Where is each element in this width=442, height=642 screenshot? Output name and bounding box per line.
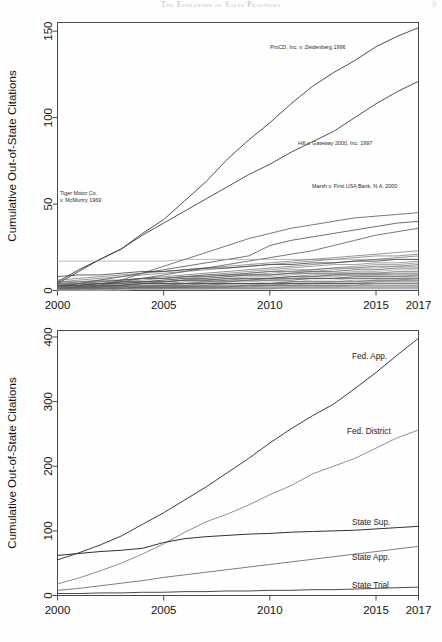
top-plot-frame — [58, 23, 419, 291]
x-tick-label: 2000 — [45, 299, 71, 311]
label-fed-district: Fed. District — [347, 427, 391, 436]
x-tick-label: 2010 — [257, 299, 283, 311]
y-tick-label: 150 — [42, 22, 54, 41]
annot-tiger: Tiger Motor Co. — [60, 190, 97, 196]
y-tick-label: 400 — [42, 327, 54, 346]
annot-tiger: v. McMurtry 1969 — [60, 197, 101, 203]
bottom-chart-svg: 0100200300400 20002005201020152017 Fed. … — [0, 320, 442, 642]
x-tick-label: 2017 — [406, 299, 432, 311]
y-tick-label: 0 — [42, 287, 54, 293]
running-head-title: The Evolution of Sales Practices — [161, 0, 281, 9]
top-y-axis-ticks: 050100150 — [42, 22, 58, 294]
y-tick-label: 300 — [42, 392, 54, 411]
top-y-axis-title: Cumulative Out-of-State Citations — [6, 70, 18, 242]
top-chart-svg: 050100150 20002005201020152017 ProCD, In… — [0, 10, 442, 320]
label-state-app: State App. — [352, 553, 390, 562]
running-head: The Evolution of Sales Practices — [0, 0, 442, 10]
y-tick-label: 0 — [42, 592, 54, 598]
bottom-x-axis-ticks: 20002005201020152017 — [45, 596, 432, 616]
x-tick-label: 2005 — [151, 299, 177, 311]
x-tick-label: 2015 — [363, 604, 389, 616]
annot-marsh: Marsh v. First USA Bank, N.A. 2000 — [312, 183, 397, 189]
top-annotations-group: ProCD, Inc. v. Zeidenberg 1996Hill v. Ga… — [60, 44, 397, 203]
x-tick-label: 2005 — [151, 604, 177, 616]
label-state-trial: State Trial — [352, 581, 389, 590]
top-series-group — [58, 28, 419, 291]
y-tick-label: 200 — [42, 457, 54, 476]
page-folio: 9 — [432, 0, 436, 9]
bottom-y-axis-ticks: 0100200300400 — [42, 327, 58, 598]
annot-procd: ProCD, Inc. v. Zeidenberg 1996 — [270, 44, 345, 50]
top-chart-block: 050100150 20002005201020152017 ProCD, In… — [0, 10, 442, 320]
top-x-axis-ticks: 20002005201020152017 — [45, 291, 432, 311]
y-tick-label: 100 — [42, 108, 54, 127]
page-root: The Evolution of Sales Practices 9 05010… — [0, 0, 442, 642]
label-state-sup: State Sup. — [352, 518, 390, 527]
annot-hill: Hill v. Gateway 2000, Inc. 1997 — [298, 140, 372, 146]
series-line — [58, 228, 419, 289]
x-tick-label: 2000 — [45, 604, 71, 616]
bottom-y-axis-title: Cumulative Out-of-State Citations — [6, 377, 18, 549]
x-tick-label: 2010 — [257, 604, 283, 616]
series-line — [58, 526, 419, 555]
bottom-chart-block: 0100200300400 20002005201020152017 Fed. … — [0, 320, 442, 642]
x-tick-label: 2015 — [363, 299, 389, 311]
y-tick-label: 100 — [42, 521, 54, 540]
label-fed-app: Fed. App. — [352, 352, 387, 361]
series-line — [58, 213, 419, 291]
x-tick-label: 2017 — [406, 604, 432, 616]
top-chart-axes — [58, 23, 419, 291]
series-line — [58, 28, 419, 282]
bottom-series-labels-group: Fed. App.Fed. DistrictState Sup.State Ap… — [347, 352, 391, 590]
y-tick-label: 50 — [42, 198, 54, 211]
